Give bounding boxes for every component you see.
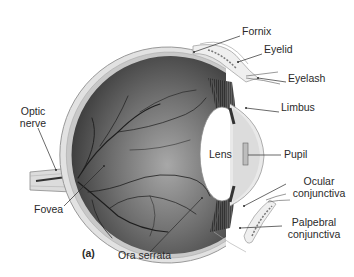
label-pupil: Pupil xyxy=(284,148,307,160)
leader-optic-nerve xyxy=(38,128,56,170)
label-ocular-line2: conjunctiva xyxy=(286,187,352,199)
leader-limbus xyxy=(246,108,279,112)
label-ocular-line1: Ocular xyxy=(286,175,352,187)
label-eyelash: Eyelash xyxy=(288,72,325,84)
label-fornix: Fornix xyxy=(242,25,271,37)
label-ora-serrata: Ora serrata xyxy=(118,249,171,261)
label-optic-line2: nerve xyxy=(15,117,51,129)
label-eyelid: Eyelid xyxy=(264,43,293,55)
label-palpebral-line2: conjunctiva xyxy=(281,228,347,240)
label-fovea: Fovea xyxy=(34,203,63,215)
label-optic-line1: Optic xyxy=(15,105,51,117)
label-limbus: Limbus xyxy=(281,101,315,113)
label-lens: Lens xyxy=(209,148,232,160)
label-palpebral-conjunctiva: Palpebral conjunctiva xyxy=(281,216,347,240)
label-optic-nerve: Optic nerve xyxy=(15,105,51,129)
panel-label: (a) xyxy=(82,247,95,259)
leader-eyelid xyxy=(238,54,262,62)
label-palpebral-line1: Palpebral xyxy=(281,216,347,228)
label-ocular-conjunctiva: Ocular conjunctiva xyxy=(286,175,352,199)
